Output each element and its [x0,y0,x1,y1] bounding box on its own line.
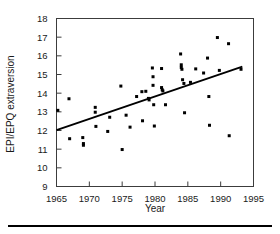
data-point [68,137,71,140]
data-point [119,85,122,88]
x-tick-label: 1985 [177,193,198,204]
data-point [152,103,155,106]
data-point [182,82,185,85]
x-tick-label: 1990 [210,193,231,204]
y-tick-label: 10 [37,162,48,173]
x-tick-label: 1970 [79,193,100,204]
data-point [152,75,155,78]
data-point [56,109,59,112]
data-point [67,97,70,100]
data-point [125,114,128,117]
data-point [207,95,210,98]
data-point [180,63,183,66]
y-tick-label: 16 [37,50,48,61]
x-tick-label: 1980 [144,193,165,204]
data-point [218,69,221,72]
data-point [189,81,192,84]
y-tick-label: 13 [37,106,48,117]
y-tick-label: 9 [42,181,47,192]
scatter-plot: EPI/EPQ extraversion Year 91011121314151… [0,0,280,234]
data-point [183,111,186,114]
y-tick-label: 14 [37,88,48,99]
data-point [94,111,97,114]
y-tick-label: 12 [37,125,48,136]
data-point [121,148,124,151]
data-point [82,144,85,147]
data-point [194,67,197,70]
data-point [208,124,211,127]
data-point [108,116,111,119]
data-point [216,36,219,39]
data-point [148,98,151,101]
x-tick-label: 1975 [112,193,133,204]
y-tick-label: 11 [38,144,48,155]
data-point [206,57,209,60]
data-point [140,90,143,93]
x-axis-title: Year [145,203,166,214]
y-tick-label: 18 [37,13,48,24]
data-point [240,68,243,71]
data-point [106,130,109,133]
data-point [164,103,167,106]
data-point [144,90,147,93]
data-point [135,95,138,98]
data-point [227,42,230,45]
data-point [179,52,182,55]
y-tick-label: 17 [37,32,48,43]
y-axis-title: EPI/EPQ extraversion [5,55,16,152]
data-point [181,78,184,81]
figure-panel: EPI/EPQ extraversion Year 91011121314151… [0,0,280,234]
x-tick-label: 1965 [46,193,67,204]
data-point [94,106,97,109]
data-point [129,126,132,129]
data-point [94,125,97,128]
data-point [152,84,155,87]
data-point [141,119,144,122]
data-point [151,66,154,69]
data-point [180,68,183,71]
data-point [228,134,231,137]
data-point [161,89,164,92]
data-point [160,67,163,70]
x-tick-label: 1995 [243,193,264,204]
data-point [153,125,156,128]
y-tick-label: 15 [37,69,48,80]
data-point [202,72,205,75]
data-point [81,136,84,139]
